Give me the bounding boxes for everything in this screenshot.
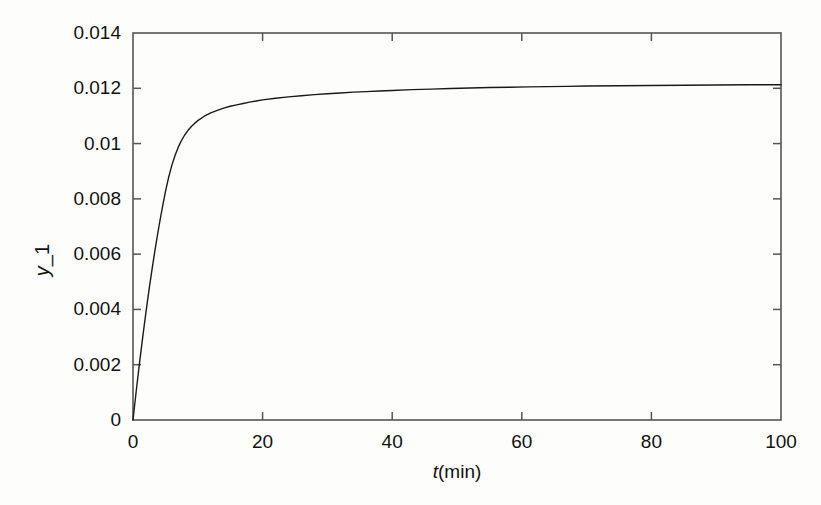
data-line-y_1 (133, 85, 781, 420)
data-series-group (133, 85, 781, 420)
x-tick-label: 80 (641, 431, 662, 453)
chart-figure: 00.0020.0040.0060.0080.010.0120.014 0204… (0, 0, 821, 505)
x-tick-label: 100 (765, 431, 797, 453)
y-tick-label: 0.006 (73, 243, 121, 265)
y-tick-label: 0.012 (73, 77, 121, 99)
x-axis-title: t(min) (433, 461, 482, 483)
axes-box (133, 33, 781, 420)
y-tick-label: 0 (110, 409, 121, 431)
y-tick-label: 0.002 (73, 354, 121, 376)
x-axis-title-units: (min) (438, 461, 481, 482)
y-tick-label: 0.004 (73, 298, 121, 320)
y-axis-title-variable: y (31, 266, 53, 276)
x-tick-label: 40 (382, 431, 403, 453)
x-tick-label: 60 (511, 431, 532, 453)
x-tick-label: 20 (252, 431, 273, 453)
y-axis-title-suffix: _1 (31, 244, 53, 266)
y-tick-label: 0.008 (73, 188, 121, 210)
y-tick-label: 0.01 (84, 133, 121, 155)
x-tick-label: 0 (128, 431, 139, 453)
plot-canvas (0, 0, 821, 505)
axes-frame (133, 33, 781, 420)
axis-ticks (133, 33, 781, 420)
y-tick-label: 0.014 (73, 22, 121, 44)
y-axis-title: y_1 (31, 244, 54, 276)
